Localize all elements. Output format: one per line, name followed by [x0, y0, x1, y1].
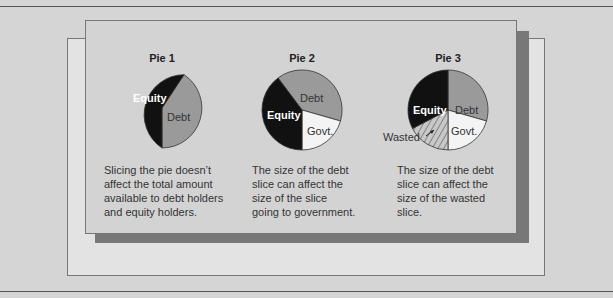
pie-3-chart: Equity Debt Govt. Wasted [408, 70, 488, 150]
pie-2-title: Pie 2 [262, 52, 342, 64]
pie-1-equity-label: Equity [133, 92, 167, 104]
pie-3-government-label: Govt. [451, 125, 477, 137]
pie-1-caption: Slicing the pie doesn’t affect the total… [104, 163, 254, 219]
pie-3-title: Pie 3 [408, 52, 488, 64]
pie-2-equity-label: Equity [267, 109, 301, 121]
pie-1-debt-label: Debt [167, 111, 190, 123]
pie-2-government-label: Govt. [307, 125, 333, 137]
bottom-rule [0, 291, 613, 292]
pie-3-wasted-label: Wasted [383, 131, 420, 143]
pie-3-debt-label: Debt [455, 104, 478, 116]
pie-1-title: Pie 1 [122, 52, 202, 64]
top-rule [0, 6, 613, 7]
pie-1-chart: Equity Debt [122, 68, 202, 148]
pie-2-debt-label: Debt [300, 92, 323, 104]
pie-2-chart: Debt Equity Govt. [262, 70, 342, 150]
pie-3-caption: The size of the debt slice can affect th… [397, 163, 547, 219]
pie-3-equity-label: Equity [413, 104, 447, 116]
pie-2-caption: The size of the debt slice can affect th… [252, 163, 402, 219]
